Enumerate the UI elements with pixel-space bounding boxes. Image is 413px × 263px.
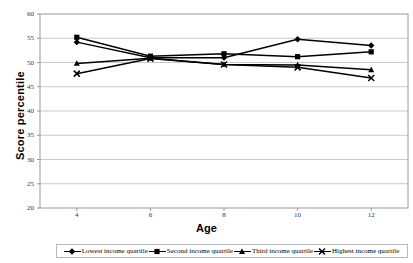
legend-item-0: Lowest income quartile	[64, 247, 149, 256]
legend-marker-glyph	[316, 247, 328, 256]
legend-marker-triangle-icon	[234, 247, 251, 256]
marker-diamond	[368, 42, 374, 48]
legend-marker-diamond-icon	[64, 247, 81, 256]
data-point-0-0	[74, 39, 80, 45]
y-tick-label: 25	[8, 180, 34, 188]
marker-diamond	[74, 39, 80, 45]
legend-label: Lowest income quartile	[82, 247, 149, 255]
legend-marker-shape	[319, 248, 325, 254]
data-point-0-3	[294, 36, 300, 42]
legend-marker-glyph	[236, 247, 248, 256]
data-point-1-0	[74, 35, 79, 40]
y-tick-label: 30	[8, 156, 34, 164]
x-tick-label: 8	[209, 211, 239, 219]
legend-marker-x-icon	[314, 247, 331, 256]
marker-square	[295, 54, 300, 59]
y-tick-label: 50	[8, 59, 34, 67]
legend-marker-shape	[239, 248, 245, 254]
marker-diamond	[294, 36, 300, 42]
legend-marker-glyph	[66, 247, 78, 256]
legend-marker-glyph	[151, 247, 163, 256]
marker-square	[221, 51, 226, 56]
data-point-1-3	[295, 54, 300, 59]
legend-marker-shape	[155, 248, 160, 253]
marker-square	[369, 49, 374, 54]
marker-diamond	[69, 248, 75, 254]
data-point-1-2	[221, 51, 226, 56]
legend-label: Third income quartile	[252, 247, 314, 255]
chart-legend: Lowest income quartileSecond income quar…	[56, 244, 408, 258]
marker-square	[155, 248, 160, 253]
y-tick-label: 20	[8, 204, 34, 212]
legend-item-1: Second income quartile	[149, 247, 234, 256]
y-tick-label: 45	[8, 83, 34, 91]
y-tick-label: 40	[8, 107, 34, 115]
y-tick-label: 60	[8, 10, 34, 18]
marker-triangle	[239, 248, 245, 254]
x-tick-label: 6	[135, 211, 165, 219]
legend-label: Highest income quartile	[332, 247, 400, 255]
y-tick-label: 35	[8, 131, 34, 139]
data-point-0-4	[368, 42, 374, 48]
chart-container: Score percentile Age 202530354045505560 …	[0, 0, 413, 263]
legend-item-3: Highest income quartile	[314, 247, 400, 256]
legend-marker-square-icon	[149, 247, 166, 256]
marker-square	[74, 35, 79, 40]
data-point-1-4	[369, 49, 374, 54]
legend-label: Second income quartile	[167, 247, 234, 255]
x-axis-title: Age	[0, 222, 413, 234]
x-tick-label: 10	[283, 211, 313, 219]
legend-marker-shape	[69, 248, 75, 254]
y-tick-label: 55	[8, 34, 34, 42]
x-tick-label: 12	[356, 211, 386, 219]
x-tick-label: 4	[62, 211, 92, 219]
legend-item-2: Third income quartile	[234, 247, 314, 256]
